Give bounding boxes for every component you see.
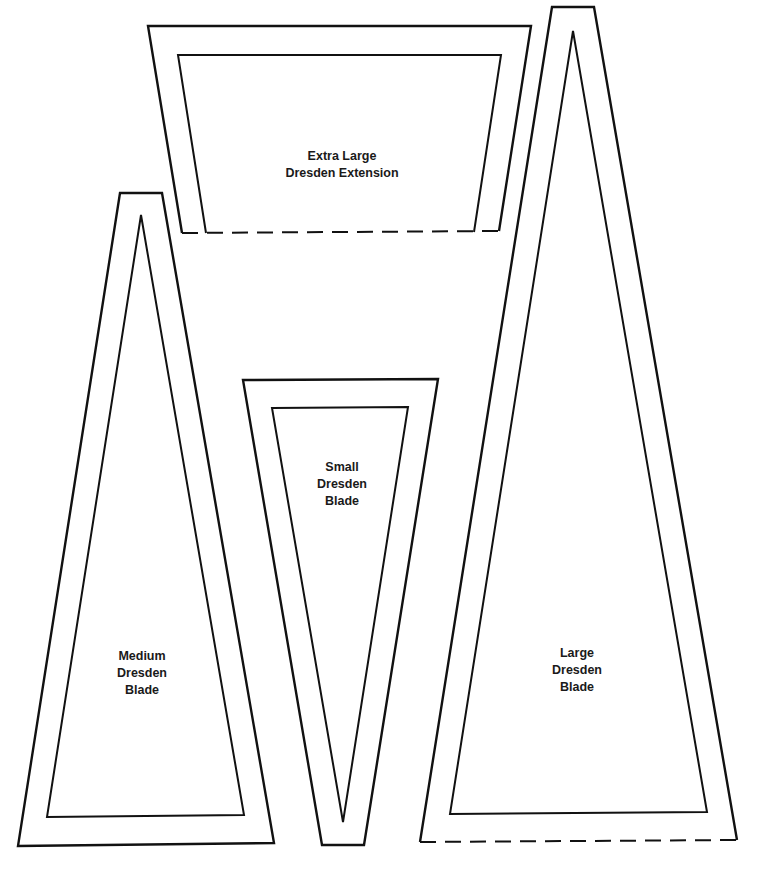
large-blade-cut-line (420, 7, 737, 842)
large-blade-template (420, 7, 737, 842)
small-blade-label-line-1: Small (317, 459, 367, 476)
large-blade-label-line-3: Blade (552, 679, 602, 696)
extension-seam-line (178, 55, 501, 233)
extension-label-line-1: Extra Large (285, 148, 398, 165)
large-blade-label: Large Dresden Blade (552, 645, 602, 696)
pattern-sheet (0, 0, 771, 874)
large-blade-fold-line (420, 840, 737, 842)
extension-fold-line (182, 231, 499, 233)
large-blade-seam-line (450, 31, 707, 814)
small-blade-template (243, 379, 438, 845)
extension-label-line-2: Dresden Extension (285, 165, 398, 182)
small-blade-cut-line (243, 379, 438, 845)
extension-cut-line (148, 26, 531, 233)
extra-large-extension-template (148, 26, 531, 233)
small-blade-label-line-3: Blade (317, 493, 367, 510)
large-blade-label-line-2: Dresden (552, 662, 602, 679)
medium-blade-seam-line (47, 215, 244, 817)
medium-blade-template (18, 193, 274, 846)
extension-label: Extra Large Dresden Extension (285, 148, 398, 182)
medium-blade-label-line-3: Blade (117, 682, 167, 699)
medium-blade-cut-line (18, 193, 274, 846)
small-blade-label: Small Dresden Blade (317, 459, 367, 510)
medium-blade-label-line-2: Dresden (117, 665, 167, 682)
medium-blade-label: Medium Dresden Blade (117, 648, 167, 699)
large-blade-label-line-1: Large (552, 645, 602, 662)
small-blade-label-line-2: Dresden (317, 476, 367, 493)
medium-blade-label-line-1: Medium (117, 648, 167, 665)
